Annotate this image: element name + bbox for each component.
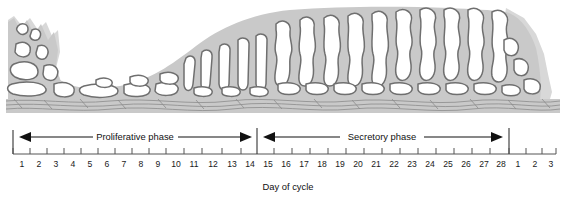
day-label: 8 (139, 159, 144, 169)
day-label: 3 (54, 159, 59, 169)
day-label: 13 (227, 159, 237, 169)
day-label: 28 (496, 159, 506, 169)
day-label: 1 (516, 159, 521, 169)
day-label: 14 (245, 159, 255, 169)
day-label: 21 (371, 159, 381, 169)
day-label: 24 (425, 159, 435, 169)
endometrial-cycle-figure: Proliferative phase Secretory phase (0, 0, 568, 203)
day-label: 2 (533, 159, 538, 169)
day-label: 2 (37, 159, 42, 169)
day-label: 12 (208, 159, 218, 169)
day-label: 17 (299, 159, 309, 169)
day-label: 25 (443, 159, 453, 169)
day-label: 16 (281, 159, 291, 169)
day-label: 27 (479, 159, 489, 169)
day-label: 20 (353, 159, 363, 169)
day-axis: 1 2 3 4 5 6 7 8 9 10 11 12 13 14 15 16 1… (13, 128, 556, 169)
axis-day-labels: 1 2 3 4 5 6 7 8 9 10 11 12 13 14 15 16 1… (20, 159, 554, 169)
day-label: 9 (156, 159, 161, 169)
day-label: 26 (461, 159, 471, 169)
day-label: 1 (20, 159, 25, 169)
figure-svg: Proliferative phase Secretory phase (0, 0, 568, 203)
axis-ticks (13, 148, 556, 154)
endometrium-illustration (6, 7, 560, 113)
day-label: 15 (263, 159, 273, 169)
phase-arrows (19, 132, 503, 142)
day-label: 18 (317, 159, 327, 169)
day-label: 7 (122, 159, 127, 169)
day-label: 3 (549, 159, 554, 169)
day-label: 5 (88, 159, 93, 169)
day-label: 23 (407, 159, 417, 169)
day-label: 19 (335, 159, 345, 169)
day-label: 6 (105, 159, 110, 169)
phase-label-secretory: Secretory phase (348, 131, 416, 142)
phase-label-proliferative: Proliferative phase (96, 131, 174, 142)
axis-caption: Day of cycle (262, 181, 313, 192)
day-label: 11 (190, 159, 199, 169)
day-label: 10 (171, 159, 181, 169)
basalis-layer (6, 99, 560, 113)
day-label: 4 (71, 159, 76, 169)
day-label: 22 (389, 159, 399, 169)
